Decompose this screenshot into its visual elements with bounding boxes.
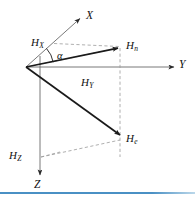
- caption-divider-rule: [0, 192, 195, 194]
- angle-arc-group: [47, 49, 54, 63]
- alpha-arc: [47, 49, 54, 63]
- hn-component-label: Hn: [126, 40, 138, 51]
- y-axis-label: Y: [179, 59, 185, 71]
- dashed-hx-to-hn: [54, 44, 119, 47]
- he-component-label: He: [126, 133, 137, 144]
- dashed-hz-tick: [41, 152, 60, 157]
- alpha-angle-label: α: [57, 51, 63, 62]
- dashed-hz-to-he: [41, 140, 120, 157]
- z-axis-label: Z: [34, 179, 40, 191]
- construction-lines-group: [27, 44, 120, 158]
- hx-component-label: HX: [31, 37, 44, 48]
- hy-component-label: HY: [81, 77, 93, 88]
- hz-component-label: HZ: [9, 150, 21, 161]
- axis-group: [26, 19, 174, 176]
- x-axis-label: X: [86, 10, 93, 22]
- vector-diagram-figure: X Y Z HX HY HZ Hn He α: [0, 0, 195, 205]
- vector-diagram-canvas: [0, 0, 195, 205]
